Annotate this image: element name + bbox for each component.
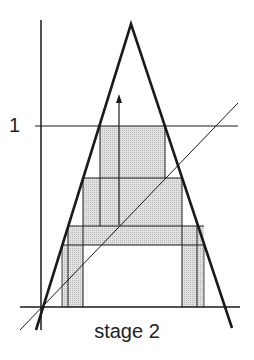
y-tick-label: 1 — [9, 114, 20, 137]
fuzzy-stage-diagram — [0, 0, 254, 360]
arrow-head-icon — [116, 94, 122, 103]
caption: stage 2 — [0, 320, 254, 343]
